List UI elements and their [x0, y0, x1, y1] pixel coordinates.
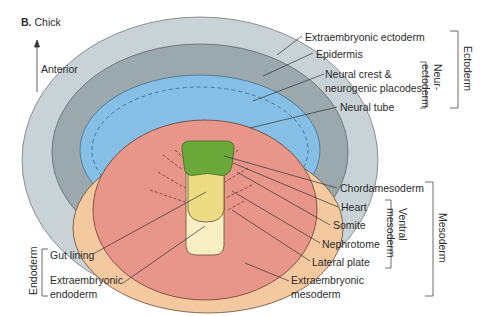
group-ectoderm: Ectoderm — [462, 46, 474, 91]
label-lateral-plate: Lateral plate — [312, 256, 370, 268]
organism-name: Chick — [35, 16, 61, 28]
anterior-label: Anterior — [41, 63, 78, 75]
label-heart: Heart — [341, 201, 367, 213]
anterior-arrow-icon — [35, 40, 40, 92]
group-ventral-mesoderm-line2: mesoderm — [385, 208, 397, 258]
fate-map-diagram — [0, 0, 488, 316]
label-gut-lining: Gut lining — [50, 249, 94, 261]
group-endoderm: Endoderm — [27, 247, 39, 295]
label-extraembryonic-endoderm-line1: Extraembryonic — [50, 274, 123, 286]
figure-title: B.Chick — [21, 16, 61, 28]
label-extraembryonic-ectoderm: Extraembryonic ectoderm — [305, 31, 425, 43]
label-chordamesoderm: Chordamesoderm — [340, 182, 424, 194]
chordamesoderm-region — [182, 141, 234, 176]
label-nephrotome: Nephrotome — [322, 238, 380, 250]
label-extraembryonic-mesoderm-line2: mesoderm — [291, 288, 341, 300]
label-neural-tube: Neural tube — [340, 101, 394, 113]
label-epidermis: Epidermis — [316, 48, 363, 60]
panel-letter: B. — [21, 16, 32, 28]
group-mesoderm: Mesoderm — [437, 213, 449, 263]
label-somite: Somite — [333, 219, 366, 231]
group-ventral-mesoderm-line1: Ventral — [397, 208, 409, 241]
label-neural-crest-line2: neurogenic placodes — [325, 82, 422, 94]
label-neural-crest-line1: Neural crest & — [325, 68, 392, 80]
label-extraembryonic-mesoderm-line1: Extraembryonic — [291, 274, 364, 286]
group-neurectoderm-line1: Neur- — [432, 64, 444, 90]
group-neurectoderm-line2: ectoderm — [420, 64, 432, 108]
label-extraembryonic-endoderm-line2: endoderm — [50, 288, 97, 300]
